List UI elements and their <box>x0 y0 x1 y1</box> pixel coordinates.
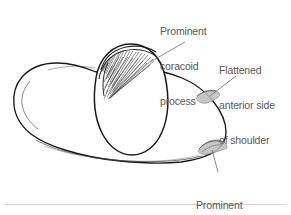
leader-line-humeral <box>212 150 218 172</box>
callout-line: Prominent <box>196 200 258 212</box>
callout-line: of shoulder <box>219 135 275 147</box>
callout-prominent-humeral-head: Prominent humeral head <box>196 177 258 215</box>
callout-line: Flattened <box>219 65 275 77</box>
anatomical-figure: Prominent coracoid process Flattened ant… <box>0 0 291 215</box>
callout-flattened-anterior-side: Flattened anterior side of shoulder <box>219 42 275 170</box>
callout-line: coracoid <box>160 61 207 73</box>
callout-prominent-coracoid-process: Prominent coracoid process <box>160 3 207 131</box>
callout-line: anterior side <box>219 100 275 112</box>
callout-line: process <box>160 96 207 108</box>
callout-line: Prominent <box>160 26 207 38</box>
